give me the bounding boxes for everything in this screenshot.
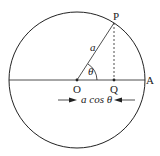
circle-diagram: P O Q A a θ a cos θ: [0, 0, 160, 156]
radius-line-op: [77, 23, 114, 80]
point-o-dot: [76, 79, 79, 82]
label-radius: a: [90, 41, 96, 53]
label-projection: a cos θ: [81, 93, 113, 105]
right-arrow: [114, 98, 135, 103]
label-o: O: [73, 83, 81, 95]
label-a: A: [146, 74, 154, 86]
point-q-dot: [113, 79, 116, 82]
left-arrow: [58, 98, 77, 103]
label-angle: θ: [88, 65, 94, 77]
label-p: P: [113, 10, 119, 22]
